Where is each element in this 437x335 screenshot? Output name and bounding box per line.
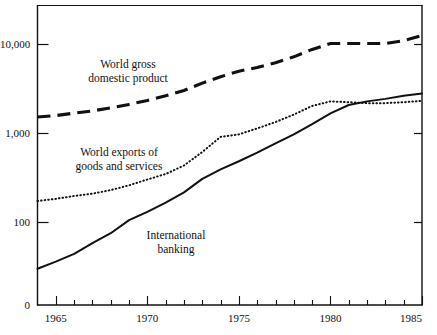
x-tick-label-1965: 1965 [36, 313, 76, 324]
y-tick-label-100: 100 [0, 217, 30, 228]
series-annotation-world-exports: World exports of goods and services [66, 146, 172, 173]
series-annotation-world-gdp: World gross domestic product [78, 58, 178, 85]
series-annotation-world-gdp-line2: domestic product [88, 72, 168, 84]
x-tick-label-1980: 1980 [310, 313, 350, 324]
series-annotation-international-banking: International banking [136, 229, 216, 256]
y-tick-label-0: 0 [0, 300, 30, 311]
series-line-international-banking [38, 94, 423, 269]
x-tick-label-1975: 1975 [219, 313, 259, 324]
series-annotation-world-exports-line2: goods and services [76, 160, 163, 172]
y-tick-label-1000: 1,000 [0, 128, 30, 139]
chart-container: 10,000 1,000 100 0 1965 1970 1975 1980 1… [0, 0, 437, 335]
y-tick-label-10000: 10,000 [0, 39, 30, 50]
x-axis-ticks [57, 296, 423, 305]
x-tick-label-1985: 1985 [391, 313, 431, 324]
y-axis-ticks-right [414, 45, 422, 223]
x-tick-label-1970: 1970 [127, 313, 167, 324]
series-annotation-world-exports-line1: World exports of [80, 146, 158, 158]
series-annotation-international-banking-line1: International [147, 229, 206, 241]
series-annotation-international-banking-line2: banking [157, 243, 194, 255]
series-annotation-world-gdp-line1: World gross [100, 58, 156, 70]
y-axis-ticks [38, 45, 49, 223]
